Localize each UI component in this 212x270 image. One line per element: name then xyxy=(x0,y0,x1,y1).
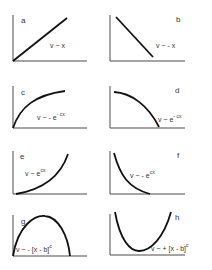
panel-equation: v ~ - x xyxy=(156,42,176,49)
panel-f: f v ~ - ecx xyxy=(106,130,212,200)
panel-a: a v ~ x xyxy=(0,0,106,70)
curve-linear-decreasing xyxy=(116,17,153,57)
panel-equation: v ~ e- cx xyxy=(158,113,182,123)
panel-label: c xyxy=(21,88,25,97)
panel-h: h v ~ + [x - b]c xyxy=(106,195,212,270)
panel-label: f xyxy=(177,151,180,160)
panel-c: c v ~ - e- cx xyxy=(0,65,106,135)
panel-equation: v ~ - ecx xyxy=(130,169,155,179)
curve-concave-decreasing xyxy=(114,92,159,127)
panel-b: b v ~ - x xyxy=(106,0,212,70)
panel-d: d v ~ e- cx xyxy=(106,65,212,135)
panel-equation: v ~ - e- cx xyxy=(37,111,65,121)
panel-equation: v ~ - [x - b]c xyxy=(16,243,52,254)
panel-label: b xyxy=(176,15,181,24)
panel-label: g xyxy=(21,217,25,226)
panel-label: d xyxy=(175,86,179,95)
panel-g: g v ~ - [x - b]c xyxy=(0,195,106,270)
panel-e: e v ~ ecx xyxy=(0,130,106,200)
panel-label: e xyxy=(20,152,25,161)
panel-label: h xyxy=(175,213,179,222)
panel-label: a xyxy=(21,16,26,25)
panel-equation: v ~ x xyxy=(50,42,65,49)
panel-equation: v ~ ecx xyxy=(25,167,46,177)
panel-equation: v ~ + [x - b]c xyxy=(151,242,189,253)
